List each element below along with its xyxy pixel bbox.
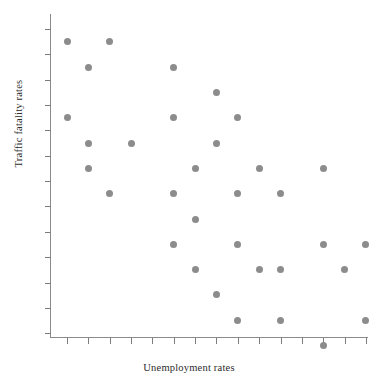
scatter-point xyxy=(85,165,92,172)
scatter-plot-figure: Unemployment rates Traffic fatality rate… xyxy=(0,0,378,389)
scatter-point xyxy=(277,190,284,197)
scatter-point xyxy=(192,165,199,172)
scatter-point xyxy=(234,190,241,197)
scatter-point xyxy=(277,266,284,273)
scatter-point xyxy=(341,266,348,273)
scatter-points-layer xyxy=(0,0,378,389)
scatter-point xyxy=(256,165,263,172)
scatter-point xyxy=(85,64,92,71)
y-axis-label: Traffic fatality rates xyxy=(13,54,24,194)
scatter-point xyxy=(213,89,220,96)
scatter-point xyxy=(64,114,71,121)
scatter-point xyxy=(320,241,327,248)
scatter-point xyxy=(362,241,369,248)
scatter-point xyxy=(85,140,92,147)
scatter-point xyxy=(192,266,199,273)
scatter-point xyxy=(170,190,177,197)
scatter-point xyxy=(170,241,177,248)
scatter-point xyxy=(256,266,263,273)
scatter-point xyxy=(213,291,220,298)
scatter-point xyxy=(234,114,241,121)
scatter-point xyxy=(213,140,220,147)
scatter-point xyxy=(106,38,113,45)
scatter-point xyxy=(170,114,177,121)
scatter-point xyxy=(192,216,199,223)
scatter-point xyxy=(170,64,177,71)
x-axis-label: Unemployment rates xyxy=(0,362,378,373)
scatter-point xyxy=(362,317,369,324)
scatter-point xyxy=(234,317,241,324)
scatter-point xyxy=(64,38,71,45)
scatter-point xyxy=(106,190,113,197)
scatter-point xyxy=(234,241,241,248)
scatter-point xyxy=(277,317,284,324)
scatter-point xyxy=(128,140,135,147)
scatter-point xyxy=(320,342,327,349)
scatter-point xyxy=(320,165,327,172)
